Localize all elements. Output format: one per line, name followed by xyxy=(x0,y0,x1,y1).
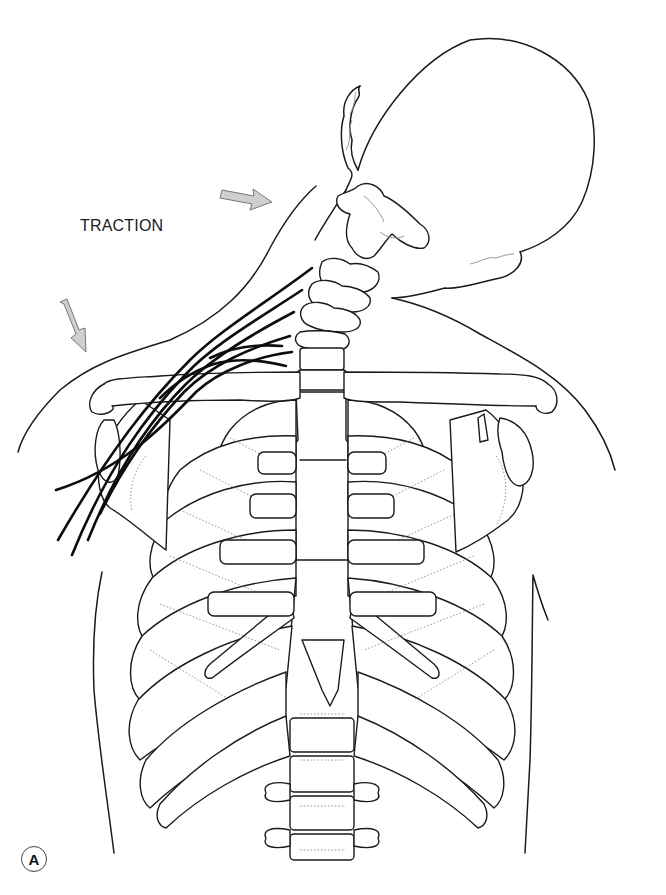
traction-label: TRACTION xyxy=(80,217,163,235)
head-traction-arrow xyxy=(220,189,272,210)
shoulder-traction-arrow xyxy=(60,299,86,352)
cervical-spine xyxy=(296,184,429,351)
head xyxy=(315,39,594,298)
panel-label-badge: A xyxy=(21,846,47,872)
anatomy-figure xyxy=(0,0,666,895)
scapula-right xyxy=(450,410,533,552)
